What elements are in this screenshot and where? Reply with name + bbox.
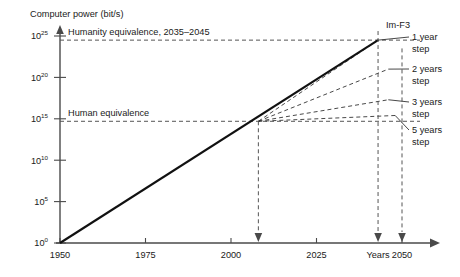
y-axis-arrowhead xyxy=(56,25,64,34)
3-years-step-legend-line1: 3 years xyxy=(412,97,443,107)
series-label: Im-F3 xyxy=(386,20,410,30)
x-tick-label: 2025 xyxy=(306,250,326,260)
x-tick-label: 1975 xyxy=(135,250,155,260)
main-trend-group xyxy=(60,40,378,243)
y-tick-label: 1025 xyxy=(31,29,49,41)
x-tick-group: 19501975200020252050 xyxy=(50,238,412,260)
5-years-step-branch xyxy=(258,115,395,121)
computer-power-chart: Computer power (bit/s) Im-F3 10010510101… xyxy=(0,0,460,277)
humanity-equivalence-label: Humanity equivalence, 2035–2045 xyxy=(68,27,210,37)
y-tick-exponent: 25 xyxy=(41,29,48,36)
y-tick-label: 1020 xyxy=(31,71,49,83)
y-axis-title: Computer power (bit/s) xyxy=(30,9,123,19)
y-tick-label: 100 xyxy=(34,236,48,248)
human-equivalence-label: Human equivalence xyxy=(68,108,149,118)
y-tick-label: 1010 xyxy=(31,154,49,166)
y-tick-group: 1001051010101510201025 xyxy=(31,29,66,248)
arrow-years-head xyxy=(374,233,382,242)
reference-line-group: Humanity equivalence, 2035–2045Human equ… xyxy=(60,27,420,121)
1-year-step-legend-line1: 1 year xyxy=(412,32,438,42)
axes xyxy=(56,25,440,247)
fan-branch-group xyxy=(258,40,395,121)
3-years-step-leader xyxy=(388,100,409,102)
y-tick-exponent: 20 xyxy=(41,71,48,78)
2-years-step-legend-line2: step xyxy=(412,76,429,86)
y-tick-exponent: 10 xyxy=(41,154,48,161)
arrow-2008-head xyxy=(255,233,263,242)
legend-group: 1 yearstep2 yearsstep3 yearsstep5 yearss… xyxy=(378,32,442,147)
2-years-step-legend-line1: 2 years xyxy=(412,64,443,74)
5-years-step-legend-line2: step xyxy=(412,137,429,147)
x-axis-arrowhead xyxy=(430,239,440,248)
x-tick-label: 2000 xyxy=(221,250,241,260)
arrow-2050-head xyxy=(398,233,406,242)
chart-canvas: Computer power (bit/s) Im-F3 10010510101… xyxy=(0,0,460,277)
3-years-step-legend-line2: step xyxy=(412,109,429,119)
y-tick-exponent: 15 xyxy=(41,112,48,119)
y-tick-exponent: 0 xyxy=(45,236,49,243)
moore-law-main xyxy=(60,40,378,243)
x-tick-label: 1950 xyxy=(50,250,70,260)
y-tick-label: 1015 xyxy=(31,112,49,124)
vertical-guide-group xyxy=(258,31,402,232)
1-year-step-legend-line2: step xyxy=(412,44,429,54)
x-annotation-group: Years xyxy=(255,233,406,260)
y-tick-exponent: 5 xyxy=(45,195,49,202)
x-tick-label: 2050 xyxy=(392,250,412,260)
x-axis-caption-years: Years xyxy=(366,250,390,260)
y-tick-label: 105 xyxy=(34,195,48,207)
5-years-step-legend-line1: 5 years xyxy=(412,125,443,135)
